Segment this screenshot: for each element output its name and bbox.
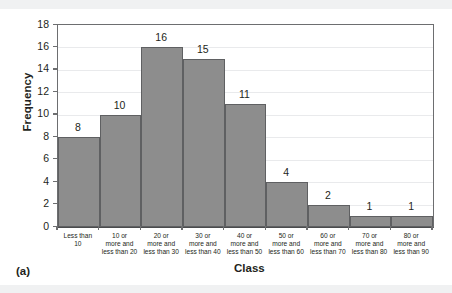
x-axis-tick-mark <box>265 226 266 230</box>
x-axis-category-label: Less than 10 <box>55 232 101 248</box>
x-axis-category-label: 50 or more and less than 60 <box>263 232 309 257</box>
y-axis-tick-label: 4 <box>23 176 49 187</box>
y-axis-tick-label: 6 <box>23 153 49 164</box>
x-axis-category-label: 40 or more and less than 50 <box>222 232 268 257</box>
x-axis-category-label: 10 or more and less than 20 <box>97 232 143 257</box>
bar-value-label: 8 <box>57 122 99 133</box>
y-axis-tick-label: 8 <box>23 131 49 142</box>
bar <box>141 47 183 227</box>
x-axis-category-label: 70 or more and less than 80 <box>347 232 393 257</box>
bar-value-label: 2 <box>307 190 349 201</box>
bar <box>58 137 100 227</box>
bar <box>183 59 225 227</box>
panel-label: (a) <box>16 265 30 277</box>
histogram-figure: Frequency 024681012141618 8101615114211 … <box>0 0 452 293</box>
x-axis-tick-mark <box>348 226 349 230</box>
y-axis-tick-label: 14 <box>23 63 49 74</box>
x-axis-category-label: 20 or more and less than 30 <box>138 232 184 257</box>
y-axis-tick-label: 12 <box>23 86 49 97</box>
bar-value-label: 4 <box>265 167 307 178</box>
bar <box>266 182 308 227</box>
bar <box>225 104 267 227</box>
bar <box>350 216 392 227</box>
bar-value-label: 11 <box>224 89 266 100</box>
x-axis-tick-mark <box>390 226 391 230</box>
x-axis-tick-mark <box>223 226 224 230</box>
y-axis-tick-label: 18 <box>23 19 49 30</box>
bar-value-label: 1 <box>349 201 391 212</box>
plot-area <box>57 24 434 228</box>
bar-value-label: 16 <box>140 32 182 43</box>
x-axis-tick-mark <box>181 226 182 230</box>
x-axis-tick-mark <box>98 226 99 230</box>
bar-value-label: 10 <box>99 100 141 111</box>
bar <box>308 205 350 227</box>
y-axis-tick-label: 10 <box>23 108 49 119</box>
gridline <box>58 47 433 48</box>
x-axis-title: Class <box>0 262 452 274</box>
gridline <box>58 70 433 71</box>
y-axis-tick-label: 16 <box>23 41 49 52</box>
bar-value-label: 1 <box>390 201 432 212</box>
bar <box>391 216 433 227</box>
y-axis-tick-label: 2 <box>23 198 49 209</box>
bar-value-label: 15 <box>182 44 224 55</box>
bar <box>100 115 142 227</box>
x-axis-tick-mark <box>140 226 141 230</box>
x-axis-category-label: 80 or more and less than 90 <box>388 232 434 257</box>
x-axis-category-label: 60 or more and less than 70 <box>305 232 351 257</box>
x-axis-tick-mark <box>56 226 57 230</box>
y-axis-tick-label: 0 <box>23 221 49 232</box>
x-axis-category-label: 30 or more and less than 40 <box>180 232 226 257</box>
x-axis-tick-mark <box>431 226 432 230</box>
x-axis-tick-mark <box>306 226 307 230</box>
